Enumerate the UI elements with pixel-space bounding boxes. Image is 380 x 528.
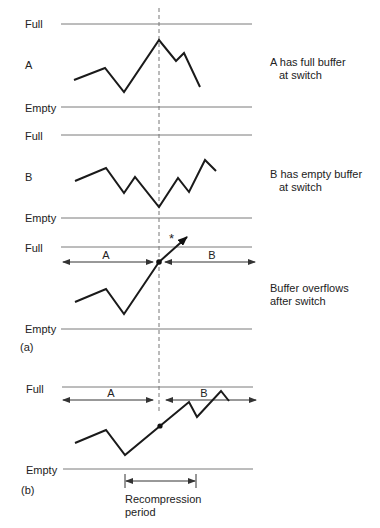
panel-b-tag: (b) bbox=[21, 484, 34, 496]
panel-a-tag: (a) bbox=[20, 341, 33, 353]
empty-label: Empty bbox=[25, 102, 57, 114]
buffer-a-graph: Full A Empty A has full buffer at switch bbox=[25, 18, 346, 114]
segment-a-label: A bbox=[102, 249, 110, 261]
switch-point-dot bbox=[157, 423, 162, 428]
segment-b-label: B bbox=[200, 387, 207, 399]
empty-label: Empty bbox=[25, 323, 57, 335]
buffer-occupancy-trace bbox=[75, 160, 216, 207]
switch-point-dot bbox=[156, 259, 162, 265]
buffer-occupancy-trace bbox=[75, 262, 159, 314]
caption-line-2: at switch bbox=[279, 181, 322, 193]
segment-a-label: A bbox=[107, 387, 115, 399]
buffer-name: A bbox=[25, 59, 33, 71]
empty-label: Empty bbox=[26, 464, 58, 476]
caption-line-1: Buffer overflows bbox=[270, 282, 349, 294]
caption-line-1: A has full buffer bbox=[270, 56, 346, 68]
caption-line-2: after switch bbox=[270, 295, 326, 307]
caption-line-2: at switch bbox=[279, 69, 322, 81]
recompression-label-line-1: Recompression bbox=[125, 493, 201, 505]
recompression-graph: Full A B Empty (b) Recompression period bbox=[21, 383, 256, 518]
buffer-occupancy-trace bbox=[74, 40, 200, 92]
recompression-label-line-2: period bbox=[125, 506, 156, 518]
overflow-graph: Full A B * Empty Buffer overflows after … bbox=[20, 231, 349, 353]
full-label: Full bbox=[25, 18, 43, 30]
empty-label: Empty bbox=[25, 212, 57, 224]
caption-line-1: B has empty buffer bbox=[270, 168, 362, 180]
full-label: Full bbox=[26, 383, 44, 395]
overflow-marker: * bbox=[169, 231, 174, 246]
buffer-switch-diagram: Full A Empty A has full buffer at switch… bbox=[0, 0, 380, 528]
buffer-b-graph: Full B Empty B has empty buffer at switc… bbox=[25, 130, 362, 224]
buffer-occupancy-trace bbox=[75, 391, 229, 455]
segment-b-label: B bbox=[208, 249, 215, 261]
full-label: Full bbox=[25, 242, 43, 254]
full-label: Full bbox=[25, 130, 43, 142]
buffer-name: B bbox=[25, 171, 32, 183]
